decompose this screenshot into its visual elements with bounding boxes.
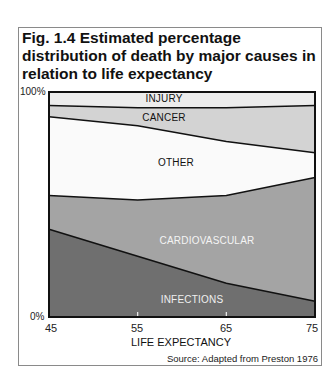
label-other: OTHER (158, 157, 194, 168)
x-tick-55: 55 (131, 322, 143, 334)
source-note: Source: Adapted from Preston 1976 (167, 353, 318, 364)
label-infections: INFECTIONS (161, 294, 224, 305)
x-tick-75: 75 (306, 322, 318, 334)
x-tick-45: 45 (45, 322, 57, 334)
y-axis-bottom-label: 0% (30, 311, 44, 322)
label-injury: INJURY (145, 93, 182, 104)
stacked-area-chart (0, 0, 332, 377)
x-axis-label: LIFE EXPECTANCY (0, 336, 332, 348)
y-axis-top-label: 100% (20, 86, 46, 97)
label-cancer: CANCER (142, 112, 185, 123)
x-tick-65: 65 (220, 322, 232, 334)
label-cardiovascular: CARDIOVASCULAR (160, 235, 255, 246)
